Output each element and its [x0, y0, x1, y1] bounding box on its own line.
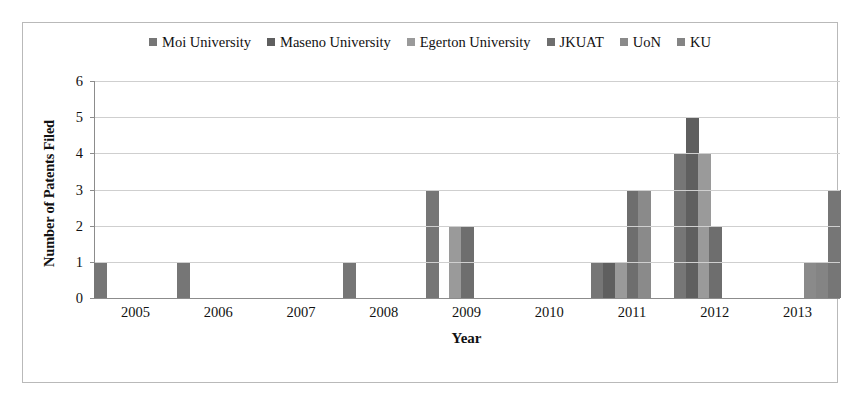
y-axis-tick-0: 0 [76, 291, 83, 306]
gridline-4 [95, 153, 840, 154]
y-tick-mark-5 [90, 117, 95, 118]
y-axis-tick-5: 5 [76, 110, 83, 125]
y-tick-mark-0 [90, 298, 95, 299]
gridline-1 [95, 262, 840, 263]
gridline-3 [95, 190, 840, 191]
y-axis-tick-1: 1 [76, 255, 83, 270]
y-axis-title-text: Number of Patents Filed [41, 120, 58, 267]
x-axis-tick-2007: 2007 [286, 305, 315, 320]
y-axis-tick-2: 2 [76, 218, 83, 233]
x-axis-tick-2010: 2010 [535, 305, 564, 320]
y-axis-tick-4: 4 [76, 146, 83, 161]
y-tick-mark-3 [90, 190, 95, 191]
bar-2008-moi-university [343, 262, 356, 298]
y-axis-tick-labels: 0123456 [61, 75, 87, 311]
x-axis-tick-2011: 2011 [618, 305, 646, 320]
chart-plot-area [94, 81, 840, 299]
y-tick-mark-1 [90, 262, 95, 263]
x-axis-tick-2006: 2006 [204, 305, 233, 320]
chart-figure-frame: Moi University Maseno University Egerton… [22, 22, 838, 383]
x-axis-tick-2012: 2012 [700, 305, 729, 320]
y-tick-mark-2 [90, 226, 95, 227]
x-axis-tick-2009: 2009 [452, 305, 481, 320]
y-axis-title: Number of Patents Filed [37, 81, 61, 305]
y-tick-mark-4 [90, 153, 95, 154]
bar-2009-moi-university [426, 190, 439, 299]
y-axis-tick-6: 6 [76, 74, 83, 89]
gridline-2 [95, 226, 840, 227]
gridline-5 [95, 117, 840, 118]
y-tick-mark-6 [90, 81, 95, 82]
x-axis-tick-labels: 200520062007200820092010201120122013 [94, 303, 839, 325]
bar-2013-moi-university-extra [828, 190, 841, 299]
x-axis-tick-2005: 2005 [121, 305, 150, 320]
x-axis-tick-2013: 2013 [783, 305, 812, 320]
gridline-6 [95, 81, 840, 82]
bar-2011-uon [638, 190, 651, 299]
bar-2006-moi-university [177, 262, 190, 298]
y-axis-tick-3: 3 [76, 182, 83, 197]
x-axis-tick-2008: 2008 [369, 305, 398, 320]
bar-2005-moi-university [94, 262, 107, 298]
x-axis-title: Year [94, 330, 839, 347]
chart-plot-wrapper: Number of Patents Filed 0123456 20052006… [23, 23, 837, 382]
